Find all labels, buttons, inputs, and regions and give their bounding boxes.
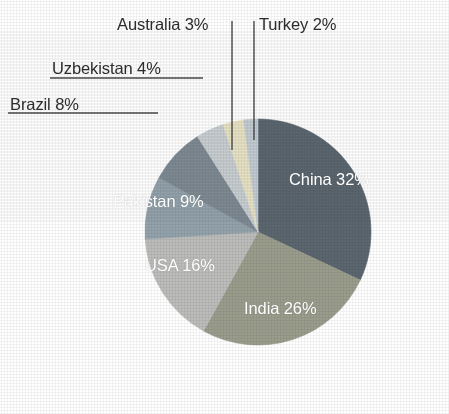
slice-label-pakistan: Pakistan 9%: [113, 193, 204, 210]
slice-callout-brazil: Brazil 8%: [10, 96, 79, 113]
pie-chart: Brazil 8% Uzbekistan 4% Australia 3% Tur…: [0, 0, 449, 414]
slice-label-india: India 26%: [244, 300, 317, 317]
slice-label-usa: USA 16%: [145, 257, 215, 274]
slice-label-china: China 32%: [289, 171, 369, 188]
slice-callout-turkey: Turkey 2%: [259, 16, 336, 33]
slice-callout-uzbekistan: Uzbekistan 4%: [52, 60, 161, 77]
slice-callout-australia: Australia 3%: [117, 16, 208, 33]
